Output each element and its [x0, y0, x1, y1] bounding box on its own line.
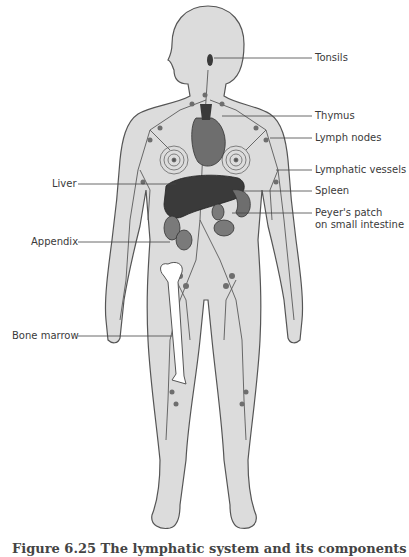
body-silhouette	[105, 6, 302, 528]
label-tonsils: Tonsils	[315, 52, 348, 64]
label-appendix: Appendix	[31, 236, 78, 248]
label-lymphatic-vessels: Lymphatic vessels	[315, 164, 406, 176]
label-thymus: Thymus	[315, 110, 355, 122]
label-spleen: Spleen	[315, 185, 349, 197]
figure-caption: Figure 6.25 The lymphatic system and its…	[12, 541, 407, 556]
label-liver: Liver	[52, 178, 77, 190]
label-bone-marrow: Bone marrow	[12, 330, 79, 342]
label-peyers-patch: Peyer's patch	[315, 207, 382, 219]
tonsils-organ	[207, 54, 213, 66]
thymus-heart-organ	[192, 118, 226, 166]
label-peyers-patch-line2: on small intestine	[315, 219, 404, 231]
label-lymph-nodes: Lymph nodes	[315, 132, 381, 144]
